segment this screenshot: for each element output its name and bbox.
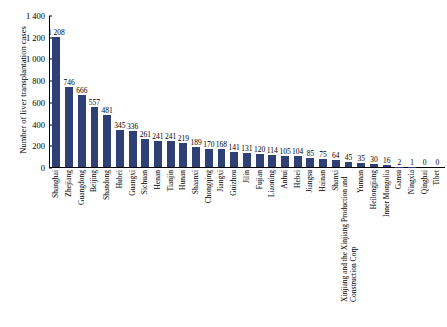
- bar[interactable]: 85: [306, 158, 314, 167]
- y-tick-label: 800: [0, 76, 49, 86]
- bar-value-label: 45: [345, 153, 353, 162]
- bar-item[interactable]: 666: [75, 16, 88, 167]
- bar-item[interactable]: 0: [431, 16, 444, 167]
- bar[interactable]: 30: [370, 164, 378, 167]
- bar[interactable]: 219: [179, 143, 187, 167]
- bar[interactable]: 336: [129, 131, 137, 167]
- bar-item[interactable]: 104: [291, 16, 304, 167]
- bar-value-label: 336: [127, 122, 138, 131]
- x-label-slot: Tibet: [431, 170, 444, 320]
- bar-item[interactable]: 189: [190, 16, 203, 167]
- bar-item[interactable]: 64: [329, 16, 342, 167]
- x-tick-label: Sichuan: [141, 170, 150, 194]
- bar-value-label: 241: [165, 132, 176, 141]
- bar[interactable]: 105: [281, 156, 289, 167]
- bar-item[interactable]: 336: [126, 16, 139, 167]
- bar-item[interactable]: 241: [152, 16, 165, 167]
- bar-item[interactable]: 1 208: [50, 16, 63, 167]
- bar[interactable]: 120: [256, 154, 264, 167]
- x-label-slot: Fujian: [253, 170, 266, 320]
- bar-item[interactable]: 35: [355, 16, 368, 167]
- x-tick-label: Guangdong: [78, 170, 87, 205]
- plot-area: 1 4001 2001 0008006004002000 1 208746666…: [49, 16, 445, 168]
- bar[interactable]: 557: [91, 107, 99, 167]
- x-label-slot: Qinghai: [418, 170, 431, 320]
- x-tick-label: Tianjin: [166, 170, 175, 191]
- bar[interactable]: 75: [319, 159, 327, 167]
- bar[interactable]: 261: [141, 139, 149, 167]
- x-label-slot: Jiangsu: [304, 170, 317, 320]
- x-label-slot: Shaanxi: [190, 170, 203, 320]
- bar-item[interactable]: 219: [177, 16, 190, 167]
- bar-item[interactable]: 114: [266, 16, 279, 167]
- bar-value-label: 75: [319, 150, 327, 159]
- bar-item[interactable]: 120: [253, 16, 266, 167]
- bar-item[interactable]: 170: [202, 16, 215, 167]
- bar-item[interactable]: 16: [380, 16, 393, 167]
- bar-value-label: 345: [114, 121, 125, 130]
- bar-item[interactable]: 2: [393, 16, 406, 167]
- bar-value-label: 114: [267, 146, 278, 155]
- x-tick-label: Fujian: [255, 170, 264, 189]
- bar-item[interactable]: 131: [241, 16, 254, 167]
- x-tick-label: Jiangxi: [217, 170, 226, 192]
- bar-item[interactable]: 45: [342, 16, 355, 167]
- y-tick-label: 200: [0, 141, 49, 151]
- bar-value-label: 557: [89, 98, 100, 107]
- x-tick-label: Yunnan: [357, 170, 366, 193]
- x-axis-labels: ShanghaiZhejiangGuangdongBeijingShandong…: [50, 170, 444, 320]
- bar[interactable]: 241: [154, 141, 162, 167]
- bar-item[interactable]: 241: [164, 16, 177, 167]
- bar-item[interactable]: 345: [114, 16, 127, 167]
- bar-item[interactable]: 1: [406, 16, 419, 167]
- y-tick-label: 1 400: [0, 11, 49, 21]
- bar-item[interactable]: 141: [228, 16, 241, 167]
- bar[interactable]: 35: [357, 163, 365, 167]
- x-label-slot: Hubei: [114, 170, 127, 320]
- bar[interactable]: 189: [192, 147, 200, 167]
- bar[interactable]: 168: [218, 149, 226, 167]
- bar-series: 1 20874666655748134533626124124121918917…: [50, 16, 444, 167]
- x-tick-label: Guangxi: [128, 170, 137, 196]
- bar-value-label: 104: [292, 147, 303, 156]
- bar-item[interactable]: 481: [101, 16, 114, 167]
- bar-item[interactable]: 75: [317, 16, 330, 167]
- bar-item[interactable]: 85: [304, 16, 317, 167]
- bar-item[interactable]: 0: [418, 16, 431, 167]
- bar[interactable]: 1 208: [52, 37, 60, 167]
- bar-item[interactable]: 30: [368, 16, 381, 167]
- x-label-slot: Hunan: [177, 170, 190, 320]
- x-label-slot: Shandong: [101, 170, 114, 320]
- bar-value-label: 481: [102, 106, 113, 115]
- x-label-slot: Gansu: [393, 170, 406, 320]
- x-tick-label: Henan: [154, 170, 163, 190]
- x-tick-label: Hebei: [293, 170, 302, 188]
- bar[interactable]: 345: [116, 130, 124, 167]
- bar[interactable]: 170: [205, 149, 213, 167]
- bar[interactable]: 141: [230, 152, 238, 167]
- bar[interactable]: 64: [332, 160, 340, 167]
- x-tick-label: Shanghai: [52, 170, 61, 198]
- x-label-slot: Chongqing: [202, 170, 215, 320]
- bar[interactable]: 131: [243, 153, 251, 167]
- x-label-slot: Hebei: [291, 170, 304, 320]
- bar[interactable]: 481: [103, 115, 111, 167]
- x-label-slot: Sichuan: [139, 170, 152, 320]
- x-tick-label: Tibet: [433, 170, 442, 186]
- bar-item[interactable]: 105: [279, 16, 292, 167]
- bar-item[interactable]: 746: [63, 16, 76, 167]
- bar[interactable]: 114: [268, 155, 276, 167]
- bar[interactable]: 104: [294, 156, 302, 167]
- x-axis-line: [49, 167, 445, 168]
- y-tick-label: 1 200: [0, 33, 49, 43]
- x-label-slot: Anhui: [279, 170, 292, 320]
- bar[interactable]: 16: [383, 165, 391, 167]
- bar[interactable]: 746: [65, 87, 73, 167]
- x-label-slot: Shanghai: [50, 170, 63, 320]
- bar-item[interactable]: 557: [88, 16, 101, 167]
- bar-item[interactable]: 168: [215, 16, 228, 167]
- bar[interactable]: 45: [345, 162, 353, 167]
- bar[interactable]: 666: [78, 95, 86, 167]
- bar-item[interactable]: 261: [139, 16, 152, 167]
- bar[interactable]: 241: [167, 141, 175, 167]
